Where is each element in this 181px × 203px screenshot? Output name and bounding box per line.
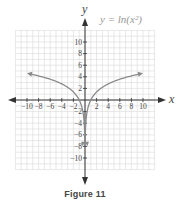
y-tick-label: 6 bbox=[78, 61, 82, 70]
y-tick-label: −10 bbox=[70, 154, 82, 163]
x-tick-label: −6 bbox=[46, 102, 54, 111]
curve-right-bottom-arrow-icon bbox=[85, 142, 89, 147]
y-axis-label: y bbox=[82, 2, 87, 17]
x-tick-label: 4 bbox=[106, 102, 110, 111]
figure-caption: Figure 11 bbox=[0, 189, 170, 199]
y-tick-label: −2 bbox=[74, 107, 82, 116]
x-axis-left-arrow-icon bbox=[8, 97, 16, 103]
y-tick-label: 2 bbox=[78, 84, 82, 93]
x-tick-label: 8 bbox=[130, 102, 134, 111]
y-tick-label: 4 bbox=[78, 72, 82, 81]
chart-title: y = ln(x²) bbox=[100, 13, 142, 25]
x-axis-right-arrow-icon bbox=[158, 97, 166, 103]
y-axis-bottom-arrow-icon bbox=[82, 177, 88, 185]
y-axis-top-arrow-icon bbox=[82, 18, 88, 26]
y-tick-label: −4 bbox=[74, 119, 82, 128]
x-tick-label: −10 bbox=[21, 102, 33, 111]
y-tick-label: 8 bbox=[78, 49, 82, 58]
curve-left-arrow-icon bbox=[27, 72, 32, 77]
x-tick-label: −8 bbox=[35, 102, 43, 111]
x-tick-label: −4 bbox=[58, 102, 66, 111]
x-tick-label: 10 bbox=[139, 102, 147, 111]
y-tick-label: 10 bbox=[75, 38, 83, 47]
curve-right-arrow-icon bbox=[138, 72, 143, 77]
chart-svg: −10−8−6−4−2246810108642−2−4−6−8−10 bbox=[0, 0, 181, 203]
x-axis-label: x bbox=[169, 92, 174, 107]
y-tick-label: −6 bbox=[74, 130, 82, 139]
y-tick-label: −8 bbox=[74, 142, 82, 151]
x-tick-label: 6 bbox=[118, 102, 122, 111]
x-tick-label: 2 bbox=[95, 102, 99, 111]
